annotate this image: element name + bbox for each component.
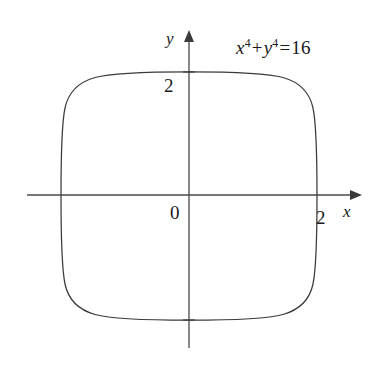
x-axis-label: x <box>343 203 351 220</box>
x-axis-arrowhead <box>350 190 362 200</box>
y-axis-tick-label-2: 2 <box>164 76 174 95</box>
math-figure: y x 2 2 0 x4+y4=16 <box>0 0 376 365</box>
y-axis-arrowhead <box>184 30 194 42</box>
x-axis-tick-label-2: 2 <box>316 208 326 227</box>
equation-term-y-base: y <box>264 37 273 58</box>
equation-right-hand-side: 16 <box>291 37 310 58</box>
origin-label: 0 <box>170 203 180 222</box>
equation-term-x-base: x <box>236 37 245 58</box>
equation-equals-operator: = <box>278 37 291 58</box>
equation-annotation: x4+y4=16 <box>236 38 311 57</box>
equation-term-x-exponent: 4 <box>245 37 251 50</box>
equation-plus-operator: + <box>251 37 264 58</box>
y-axis-label: y <box>166 30 174 47</box>
plot-canvas <box>0 0 376 365</box>
